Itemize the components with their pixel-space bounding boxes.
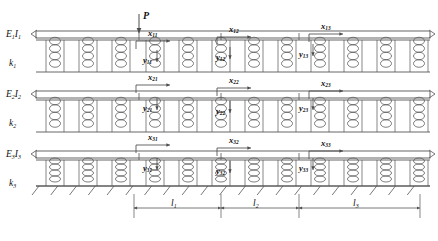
spring-r3-c1: [50, 158, 61, 182]
ground-hatch-2: [51, 186, 58, 195]
ground-hatch-14: [276, 186, 283, 195]
beam-label-1: E1I1: [6, 29, 21, 40]
ground-hatch-16: [313, 186, 320, 195]
ground-hatch-13: [257, 186, 264, 195]
ground-hatch-12: [238, 186, 245, 195]
ground-hatch-17: [332, 186, 339, 195]
ground-hatch-3: [70, 186, 77, 195]
spring-r3-c7: [249, 158, 260, 182]
beam-label-3: E3I3: [6, 149, 21, 160]
spring-r1-c8: [282, 37, 293, 67]
spring-r3-c8: [282, 158, 293, 182]
spring-r1-c12: [414, 37, 425, 67]
ground-hatch-18: [351, 186, 358, 195]
ground-hatch-19: [370, 186, 377, 195]
ground-hatch-4: [88, 186, 95, 195]
beam-slab-2: [36, 91, 430, 98]
beam-slab-3: [36, 151, 430, 158]
spring-r3-c3: [116, 158, 127, 182]
horizontal-displacement-label-x13: x13: [321, 21, 331, 31]
spring-r2-c12: [414, 97, 425, 127]
vertical-displacement-label-y12: y12: [216, 52, 225, 62]
spring-r1-c9: [315, 37, 326, 67]
horizontal-displacement-label-x31: x31: [148, 132, 158, 142]
dimension-label-l3: l3: [353, 198, 359, 209]
schematic-svg: [0, 0, 438, 241]
spring-r1-c1: [50, 37, 61, 67]
dimension-label-l2: l2: [253, 198, 259, 209]
horizontal-displacement-label-x12: x12: [229, 24, 239, 34]
ground-hatch-21: [407, 186, 414, 195]
vertical-displacement-label-y13: y13: [299, 49, 308, 59]
ground-hatch-11: [220, 186, 227, 195]
spring-r1-c11: [381, 37, 392, 67]
horizontal-displacement-label-x22: x22: [229, 75, 239, 85]
ground-hatch-6: [126, 186, 133, 195]
spring-r1-c10: [348, 37, 359, 67]
spring-r1-c5: [183, 37, 194, 67]
figure-canvas: E1I1 E2I2 E3I3 k1 k2 k3 P x11x12x13x21x2…: [0, 0, 438, 241]
spring-r2-c11: [381, 97, 392, 127]
foundation-label-k2: k2: [9, 118, 16, 129]
vertical-displacement-label-y22: y22: [216, 106, 225, 116]
vertical-displacement-label-y32: y32: [216, 166, 225, 176]
horizontal-displacement-label-x33: x33: [321, 138, 331, 148]
spring-r2-c1: [50, 97, 61, 127]
spring-r2-c7: [249, 97, 260, 127]
beam-label-2: E2I2: [6, 89, 21, 100]
load-label-P: P: [143, 10, 149, 21]
spring-r1-c3: [116, 37, 127, 67]
horizontal-displacement-label-x32: x32: [229, 135, 239, 145]
vertical-displacement-label-y21: y21: [143, 103, 152, 113]
spring-r1-c7: [249, 37, 260, 67]
ground-hatch-1: [32, 186, 39, 195]
spring-r2-c3: [116, 97, 127, 127]
vertical-displacement-label-y11: y11: [143, 55, 152, 65]
ground-hatch-10: [201, 186, 208, 195]
ground-hatch-8: [163, 186, 170, 195]
horizontal-displacement-label-x11: x11: [148, 28, 157, 38]
spring-r3-c5: [183, 158, 194, 182]
spring-r2-c9: [315, 97, 326, 127]
vertical-displacement-label-y23: y23: [299, 103, 308, 113]
spring-r3-c10: [348, 158, 359, 182]
spring-r2-c8: [282, 97, 293, 127]
spring-r3-c11: [381, 158, 392, 182]
horizontal-displacement-label-x21: x21: [148, 72, 158, 82]
foundation-label-k1: k1: [9, 58, 16, 69]
horizontal-displacement-label-x23: x23: [321, 78, 331, 88]
spring-r2-c5: [183, 97, 194, 127]
ground-hatch-15: [295, 186, 302, 195]
ground-hatch-20: [388, 186, 395, 195]
ground-hatch-5: [107, 186, 114, 195]
spring-r2-c2: [83, 97, 94, 127]
spring-r1-c2: [83, 37, 94, 67]
spring-r3-c12: [414, 158, 425, 182]
spring-r3-c9: [315, 158, 326, 182]
dimension-label-l1: l1: [171, 198, 177, 209]
spring-r2-c10: [348, 97, 359, 127]
foundation-label-k3: k3: [9, 178, 16, 189]
vertical-displacement-label-y31: y31: [143, 163, 152, 173]
spring-r3-c2: [83, 158, 94, 182]
vertical-displacement-label-y33: y33: [299, 163, 308, 173]
ground-hatch-7: [145, 186, 152, 195]
ground-hatch-9: [182, 186, 189, 195]
